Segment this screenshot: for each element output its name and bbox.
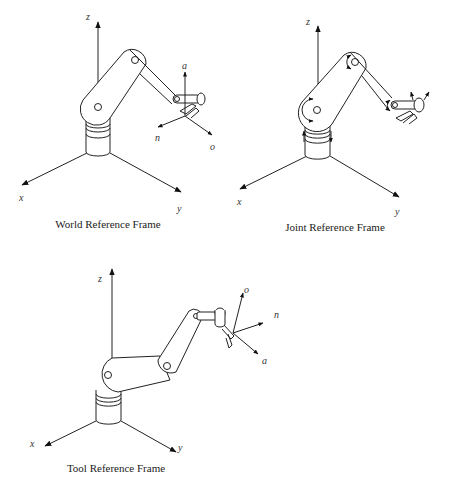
wrist-rotation-arrow <box>387 100 390 111</box>
robot-gripper <box>197 308 234 348</box>
o-axis <box>233 293 243 333</box>
a-axis-label: a <box>182 60 187 71</box>
robot-gripper <box>173 93 205 118</box>
n-axis-label: n <box>274 309 279 320</box>
y-axis <box>110 153 181 192</box>
joint-frame-figure: z x y <box>236 16 429 233</box>
shoulder-joint <box>105 372 112 379</box>
a-axis-label: a <box>262 355 267 366</box>
shoulder-joint <box>95 104 102 111</box>
robot-gripper <box>387 92 429 124</box>
z-axis-label: z <box>305 16 310 27</box>
robot-reference-frames-diagram: z x y a n <box>0 0 449 484</box>
x-axis <box>240 156 307 189</box>
robot-upper-link <box>158 309 202 373</box>
tool-frame-caption: Tool Reference Frame <box>67 462 165 474</box>
wrist-pitch-arrow <box>411 92 413 100</box>
shoulder-joint <box>314 107 321 114</box>
n-axis <box>158 116 185 127</box>
a-axis <box>233 333 258 354</box>
x-axis <box>22 153 87 185</box>
z-axis-label: z <box>97 273 102 284</box>
elbow-joint <box>164 363 171 370</box>
x-axis-label: x <box>236 196 242 207</box>
o-axis <box>185 116 212 135</box>
o-axis-label: o <box>244 284 249 295</box>
x-axis-label: x <box>29 438 35 449</box>
robot-lower-link <box>298 52 366 131</box>
joint-frame-caption: Joint Reference Frame <box>285 221 385 233</box>
robot-base <box>96 390 121 424</box>
world-frame-figure: z x y a n <box>18 11 215 230</box>
wrist-roll-arrow <box>424 92 429 100</box>
o-axis-label: o <box>210 141 215 152</box>
tool-frame-figure: z x y <box>29 269 279 474</box>
world-frame-caption: World Reference Frame <box>55 218 161 230</box>
y-axis-label: y <box>394 206 400 217</box>
z-axis-label: z <box>85 11 90 22</box>
y-axis-label: y <box>176 203 182 214</box>
n-axis-label: n <box>155 132 160 143</box>
y-axis-label: y <box>177 442 183 453</box>
x-axis <box>45 421 96 446</box>
y-axis <box>121 421 176 452</box>
x-axis-label: x <box>18 192 24 203</box>
robot-lower-link <box>80 49 146 125</box>
n-axis <box>233 323 263 333</box>
y-axis <box>330 156 399 197</box>
